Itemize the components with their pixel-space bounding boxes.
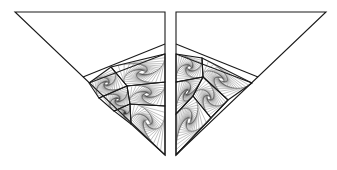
left-triangle-outline [15, 12, 165, 155]
string-art-figure [0, 0, 337, 170]
left-whirl-threads [89, 54, 165, 155]
thread-line [131, 86, 164, 105]
thread-line [207, 96, 210, 100]
left-triangle-panel [15, 12, 165, 155]
right-triangle-panel [176, 12, 326, 155]
divider-line [176, 44, 258, 77]
right-whirl-threads [176, 54, 252, 155]
thread-line [110, 94, 126, 105]
